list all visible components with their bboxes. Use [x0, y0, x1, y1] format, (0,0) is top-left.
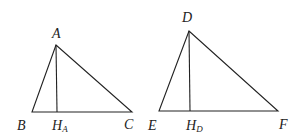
label-b: B: [17, 118, 26, 133]
label-ha: HA: [51, 118, 68, 134]
triangle-abc: [32, 45, 132, 112]
altitude-a: [56, 45, 57, 112]
triangle-diagram: A B HA C D E HD F: [0, 0, 299, 136]
altitude-d: [189, 31, 190, 111]
label-a: A: [51, 26, 61, 41]
label-d: D: [181, 10, 192, 25]
label-c: C: [124, 117, 134, 132]
triangle-def: [159, 31, 278, 111]
diagram-svg: A B HA C D E HD F: [0, 0, 299, 136]
label-hd: HD: [185, 118, 203, 134]
label-f: F: [278, 117, 288, 132]
label-e: E: [147, 118, 157, 133]
